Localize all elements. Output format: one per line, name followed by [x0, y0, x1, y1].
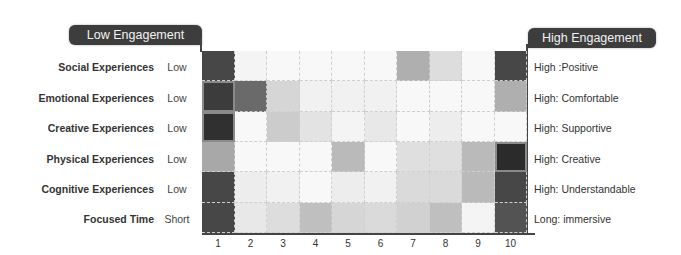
heatmap-cell — [365, 172, 398, 202]
heatmap-cell — [267, 81, 300, 111]
heatmap-cell — [235, 203, 268, 233]
heatmap-cell — [462, 142, 495, 172]
heatmap-grid — [202, 51, 527, 233]
heatmap-cell — [430, 172, 463, 202]
heatmap-cell — [365, 203, 398, 233]
heatmap-cell — [365, 51, 398, 81]
heatmap-cell — [267, 203, 300, 233]
heatmap-cell — [267, 172, 300, 202]
heatmap-cell — [495, 203, 528, 233]
heatmap-cell — [462, 203, 495, 233]
high-level-label: Long: immersive — [534, 213, 611, 225]
heatmap-cell — [202, 112, 235, 142]
heatmap-cell — [332, 51, 365, 81]
heatmap-cell — [495, 81, 528, 111]
x-tick: 6 — [365, 238, 397, 249]
heatmap-cell — [430, 81, 463, 111]
x-tick: 7 — [397, 238, 429, 249]
heatmap-cell — [300, 51, 333, 81]
heatmap-cell — [397, 51, 430, 81]
heatmap-cell — [332, 142, 365, 172]
x-tick: 8 — [430, 238, 462, 249]
x-tick: 3 — [267, 238, 299, 249]
low-level-label: Low — [158, 61, 196, 73]
heatmap-cell — [235, 51, 268, 81]
heatmap-cell — [332, 172, 365, 202]
heatmap-cell — [202, 142, 235, 172]
heatmap-cell — [495, 112, 528, 142]
heatmap-cell — [267, 112, 300, 142]
x-tick: 1 — [202, 238, 234, 249]
row-label-physical: Physical Experiences — [0, 153, 154, 165]
heatmap-cell — [300, 203, 333, 233]
heatmap-cell — [300, 142, 333, 172]
heatmap-cell — [332, 203, 365, 233]
heatmap-cell — [235, 172, 268, 202]
heatmap-cell — [267, 142, 300, 172]
low-level-label: Low — [158, 183, 196, 195]
heatmap-cell — [462, 51, 495, 81]
heatmap-cell — [462, 112, 495, 142]
low-level-label: Low — [158, 122, 196, 134]
x-tick: 5 — [332, 238, 364, 249]
row-label-focused-time: Focused Time — [0, 213, 154, 225]
heatmap-cell — [365, 142, 398, 172]
heatmap-cell — [235, 81, 268, 111]
x-axis-line — [202, 233, 535, 235]
heatmap-cell — [300, 172, 333, 202]
x-tick: 4 — [300, 238, 332, 249]
heatmap-cell — [202, 203, 235, 233]
heatmap-cell — [365, 112, 398, 142]
high-level-label: High: Supportive — [534, 122, 612, 134]
heatmap-cell — [495, 142, 528, 172]
row-label-social: Social Experiences — [0, 61, 154, 73]
heatmap-cell — [300, 81, 333, 111]
heatmap-cell — [300, 112, 333, 142]
heatmap-cell — [397, 203, 430, 233]
row-label-cognitive: Cognitive Experiences — [0, 183, 154, 195]
heatmap-cell — [495, 51, 528, 81]
heatmap-cell — [202, 172, 235, 202]
low-level-label: Low — [158, 92, 196, 104]
heatmap-cell — [430, 112, 463, 142]
low-engagement-header: Low Engagement — [69, 25, 202, 45]
heatmap-cell — [365, 81, 398, 111]
heatmap-cell — [202, 51, 235, 81]
low-engagement-divider — [200, 38, 202, 52]
heatmap-cell — [202, 81, 235, 111]
heatmap-cell — [430, 142, 463, 172]
high-level-label: High: Understandable — [534, 183, 636, 195]
low-level-label: Low — [158, 153, 196, 165]
heatmap-cell — [332, 81, 365, 111]
x-tick: 2 — [235, 238, 267, 249]
heatmap-cell — [430, 203, 463, 233]
heatmap-cell — [495, 172, 528, 202]
heatmap-cell — [397, 112, 430, 142]
x-tick: 9 — [462, 238, 494, 249]
heatmap-cell — [430, 51, 463, 81]
heatmap-cell — [332, 112, 365, 142]
heatmap-cell — [235, 142, 268, 172]
heatmap-cell — [235, 112, 268, 142]
heatmap-cell — [397, 81, 430, 111]
row-label-creative: Creative Experiences — [0, 122, 154, 134]
heatmap-cell — [267, 51, 300, 81]
heatmap-cell — [462, 172, 495, 202]
row-label-emotional: Emotional Experiences — [0, 92, 154, 104]
high-level-label: High: Creative — [534, 153, 601, 165]
heatmap-cell — [462, 81, 495, 111]
high-engagement-header: High Engagement — [528, 28, 656, 48]
heatmap-cell — [397, 172, 430, 202]
low-level-label: Short — [158, 213, 196, 225]
high-level-label: High :Positive — [534, 61, 598, 73]
high-level-label: High: Comfortable — [534, 92, 619, 104]
heatmap-cell — [397, 142, 430, 172]
x-tick: 10 — [495, 238, 527, 249]
